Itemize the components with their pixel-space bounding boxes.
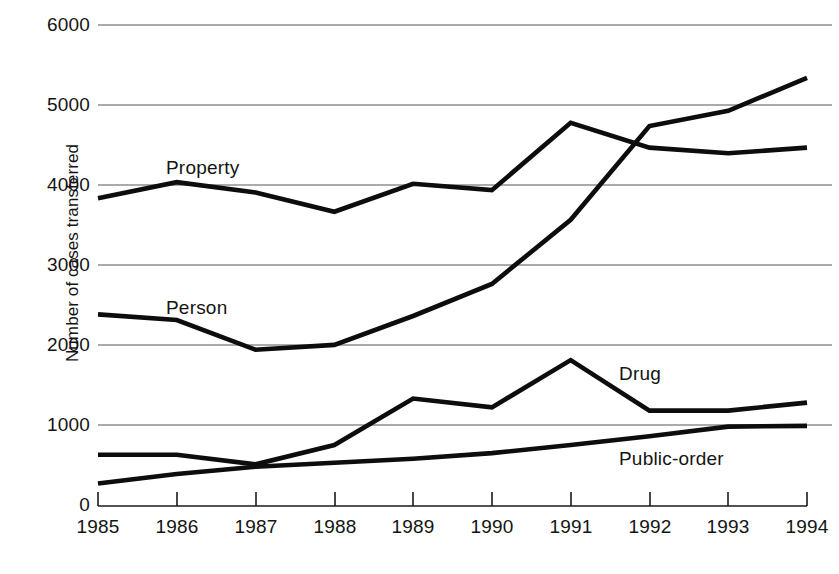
line-chart: Number of cases transferred 6000 5000 40… — [0, 0, 839, 574]
plot-area — [0, 0, 839, 574]
series-line-property — [98, 123, 807, 212]
series-line-person — [98, 78, 807, 350]
series-line-drug — [98, 360, 807, 464]
gridlines — [98, 25, 832, 425]
x-axis — [98, 492, 807, 506]
series-lines — [98, 78, 807, 484]
series-line-public-order — [98, 426, 807, 484]
